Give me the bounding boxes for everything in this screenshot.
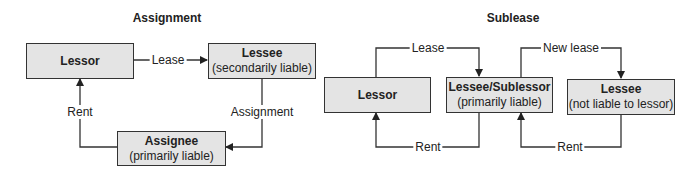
node-name: Lessee/Sublessor (448, 80, 550, 95)
node-note: (not liable to lessor) (569, 97, 674, 112)
edge-label-rent: Rent (413, 140, 442, 154)
edge-label-rent: Rent (555, 140, 584, 154)
sublease-title: Sublease (487, 11, 540, 25)
edge-label-lease: Lease (410, 41, 447, 55)
node-name: Lessee (601, 82, 642, 97)
sublease-lessor-box: Lessor (324, 77, 431, 113)
node-name: Lessee (242, 46, 283, 61)
node-name: Assignee (145, 134, 198, 149)
sublease-sublessor-box: Lessee/Sublessor (primarily liable) (446, 77, 553, 113)
edge-label-new-lease: New lease (541, 41, 601, 55)
node-name: Lessor (358, 88, 397, 103)
assignment-lessee-box: Lessee (secondarily liable) (208, 43, 316, 79)
edge-label-lease: Lease (150, 53, 187, 67)
assignment-lessor-box: Lessor (26, 43, 134, 79)
edge-label-assignment: Assignment (229, 105, 296, 119)
node-note: (primarily liable) (129, 149, 214, 164)
node-note: (primarily liable) (457, 95, 542, 110)
assignment-assignee-box: Assignee (primarily liable) (117, 131, 226, 166)
node-name: Lessor (60, 54, 99, 69)
edge-label-rent: Rent (65, 105, 94, 119)
node-note: (secondarily liable) (212, 61, 312, 76)
sublease-lessee-box: Lessee (not liable to lessor) (567, 79, 675, 115)
assignment-title: Assignment (133, 11, 202, 25)
